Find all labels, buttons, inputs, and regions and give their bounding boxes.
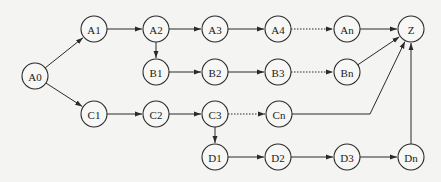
node-label: C1 bbox=[88, 109, 101, 121]
edges-layer bbox=[45, 29, 411, 157]
node-a3: A3 bbox=[202, 16, 228, 42]
nodes-layer: A0A1A2A3A4AnZB1B2B3BnC1C2C3CnD1D2D3Dn bbox=[22, 16, 424, 170]
node-label: D1 bbox=[208, 152, 221, 164]
node-label: B2 bbox=[209, 67, 222, 79]
node-a1: A1 bbox=[81, 16, 107, 42]
node-label: A3 bbox=[208, 24, 222, 36]
node-label: C3 bbox=[209, 109, 222, 121]
node-an: An bbox=[334, 16, 360, 42]
node-label: D2 bbox=[271, 152, 284, 164]
node-a2: A2 bbox=[143, 16, 169, 42]
node-cn: Cn bbox=[266, 101, 292, 127]
node-c1: C1 bbox=[81, 101, 107, 127]
node-label: Dn bbox=[404, 152, 418, 164]
node-bn: Bn bbox=[334, 59, 360, 85]
node-a4: A4 bbox=[265, 16, 291, 42]
edge-bn-to-z bbox=[358, 37, 400, 65]
node-c2: C2 bbox=[143, 101, 169, 127]
node-label: Bn bbox=[341, 67, 354, 79]
edge-a0-to-a1 bbox=[45, 38, 83, 68]
node-dn: Dn bbox=[398, 144, 424, 170]
node-d2: D2 bbox=[265, 144, 291, 170]
edge-a0-to-c1 bbox=[46, 83, 82, 106]
node-label: Cn bbox=[273, 109, 286, 121]
node-a0: A0 bbox=[22, 63, 48, 89]
node-b1: B1 bbox=[143, 59, 169, 85]
node-label: Z bbox=[408, 24, 415, 36]
node-label: A2 bbox=[149, 24, 162, 36]
node-label: D3 bbox=[340, 152, 354, 164]
node-c3: C3 bbox=[202, 101, 228, 127]
node-label: B1 bbox=[150, 67, 163, 79]
node-label: A4 bbox=[271, 24, 285, 36]
node-b2: B2 bbox=[202, 59, 228, 85]
node-label: An bbox=[340, 24, 354, 36]
node-b3: B3 bbox=[265, 59, 291, 85]
flow-graph: A0A1A2A3A4AnZB1B2B3BnC1C2C3CnD1D2D3Dn bbox=[0, 0, 441, 182]
node-label: C2 bbox=[150, 109, 163, 121]
node-label: B3 bbox=[272, 67, 285, 79]
node-label: A0 bbox=[28, 71, 42, 83]
node-d1: D1 bbox=[202, 144, 228, 170]
node-d3: D3 bbox=[334, 144, 360, 170]
node-z: Z bbox=[398, 16, 424, 42]
node-label: A1 bbox=[87, 24, 100, 36]
